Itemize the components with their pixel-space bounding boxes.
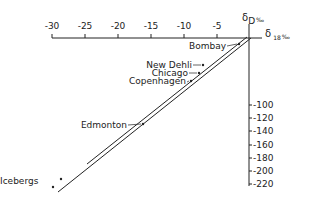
y-tick-label: -140 (253, 126, 274, 136)
y-tick-label: -100 (253, 100, 274, 110)
x-tick-label: -20 (111, 21, 126, 31)
y-tick-label: -160 (253, 140, 274, 150)
label-icebergs: Icebergs (0, 176, 39, 186)
data-point-edmonton: Edmonton (81, 120, 144, 130)
y-tick-label: -220 (253, 179, 274, 189)
label-copenhagen: Copenhagen (129, 76, 186, 86)
y-tick-label: -200 (253, 166, 274, 176)
x-tick-label: -15 (144, 21, 159, 31)
isotope-chart: -30 -25 -20 -15 -10 -5 δ18‰ -100 -120 -1… (0, 0, 312, 203)
data-point-bombay: Bombay (189, 41, 240, 51)
x-axis-title: δ18‰ (265, 28, 290, 41)
x-tick-label: -30 (45, 21, 60, 31)
y-axis-title: δD‰ (242, 12, 264, 26)
data-points-icebergs: Icebergs (0, 176, 62, 188)
label-edmonton: Edmonton (81, 120, 127, 130)
label-bombay: Bombay (189, 41, 227, 51)
y-tick-label: -180 (253, 153, 274, 163)
y-tick-label: -120 (253, 113, 274, 123)
x-tick-label: -25 (78, 21, 93, 31)
x-tick-label: -10 (177, 21, 192, 31)
x-tick-label: -5 (213, 21, 222, 31)
upper-meteoric-line (87, 37, 247, 164)
data-point-copenhagen: Copenhagen (129, 76, 192, 86)
